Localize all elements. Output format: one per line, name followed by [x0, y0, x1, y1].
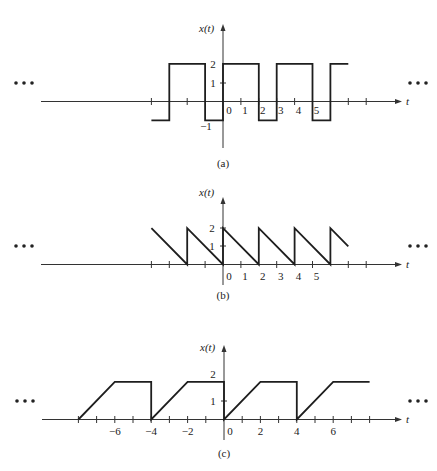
- x-tick-label: 5: [314, 104, 320, 116]
- x-tick-label: 4: [294, 425, 300, 437]
- y-tick-label: 1: [210, 395, 216, 407]
- x-tick-label: 2: [258, 425, 264, 437]
- x-tick-label: −6: [109, 425, 121, 437]
- x-axis-label: t: [406, 258, 410, 270]
- panel-caption: (a): [217, 157, 230, 170]
- panel-c-ramp-hold: t x(t) −6−4−2024621 (c): [15, 341, 428, 460]
- y-tick-label: 2: [210, 58, 216, 70]
- y-axis-label: x(t): [199, 341, 216, 354]
- ellipsis-right-icon: [408, 244, 428, 248]
- y-tick-label: 1: [210, 77, 216, 89]
- ellipsis-right-icon: [408, 81, 428, 85]
- signal-curve: [151, 228, 348, 264]
- y-tick-label: 2: [209, 222, 215, 234]
- y-axis-arrow-icon: [222, 345, 227, 352]
- x-axis-label: t: [406, 413, 410, 425]
- ellipsis-left-icon: [14, 81, 34, 85]
- x-tick-label: −4: [145, 425, 157, 437]
- x-axis-arrow-icon: [395, 99, 402, 104]
- x-axis-label: t: [406, 95, 410, 107]
- x-tick-label: 1: [242, 270, 248, 282]
- x-tick-label: 0: [226, 104, 232, 116]
- ellipsis-right-icon: [408, 399, 428, 403]
- panel-a-square-wave: t x(t) 01234521−1 (a): [14, 22, 428, 170]
- x-tick-label: 0: [227, 425, 233, 437]
- x-axis-arrow-icon: [395, 417, 402, 422]
- panel-caption: (b): [217, 289, 230, 302]
- x-tick-label: −2: [182, 425, 194, 437]
- figure: t x(t) 01234521−1 (a) t x(t): [0, 0, 437, 471]
- ellipsis-left-icon: [15, 399, 35, 403]
- x-tick-label: 2: [260, 270, 266, 282]
- y-axis-arrow-icon: [221, 197, 226, 204]
- ellipsis-left-icon: [14, 244, 34, 248]
- y-axis-label: x(t): [198, 186, 215, 199]
- x-tick-label: 3: [278, 270, 284, 282]
- y-tick-label: −1: [200, 120, 212, 132]
- x-tick-label: 2: [260, 104, 266, 116]
- panel-b-sawtooth: t x(t) 01234521 (b): [14, 186, 428, 302]
- x-tick-label: 5: [314, 270, 320, 282]
- x-tick-label: 0: [226, 270, 232, 282]
- x-tick-label: 6: [330, 425, 336, 437]
- y-tick-label: 2: [210, 368, 216, 380]
- x-tick-label: 3: [278, 104, 284, 116]
- x-tick-label: 1: [242, 104, 248, 116]
- x-tick-label: 4: [296, 104, 302, 116]
- tick-labels: −6−4−2024621: [109, 368, 337, 437]
- x-tick-label: 4: [296, 270, 302, 282]
- panel-caption: (c): [218, 447, 231, 460]
- y-axis-label: x(t): [198, 22, 215, 35]
- signal-curve: [78, 382, 369, 420]
- y-axis-arrow-icon: [221, 24, 226, 31]
- x-axis-arrow-icon: [395, 262, 402, 267]
